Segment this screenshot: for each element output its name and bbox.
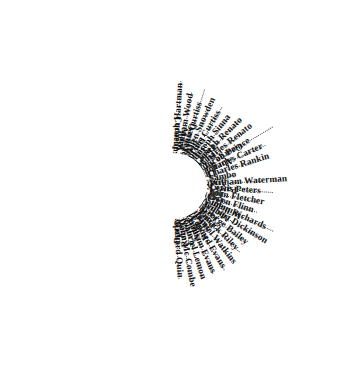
center-hub [141,153,207,219]
radial-name-wheel: Joseph HartmanWilliam WoodJohn CurtissAl… [0,0,349,369]
